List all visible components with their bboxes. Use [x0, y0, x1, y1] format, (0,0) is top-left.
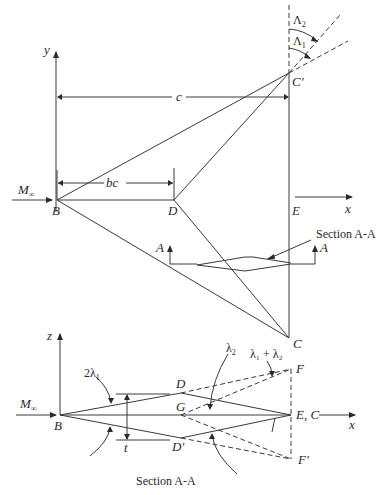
leading-edge-lower [57, 200, 289, 338]
point-E-label: E [291, 203, 300, 218]
dashed-G-F [181, 369, 291, 415]
section-caption: Section A-A [136, 474, 196, 488]
c-dimension-arrow-left-icon [57, 94, 62, 100]
point-EC-label: E, C [295, 407, 319, 422]
freestream-label-section: M∞ [19, 396, 37, 413]
point-D-label: D [167, 203, 178, 218]
sweep-lambda2-label: Λ2 [293, 13, 306, 29]
point-D-section-label: D [175, 376, 186, 391]
c-dimension-arrow-right-icon [284, 94, 289, 100]
point-B-label: B [52, 203, 60, 218]
angle-2lambda1-lower-leader [90, 428, 110, 456]
wing-geometry-diagram: y c bc M∞ Λ2 Λ1 [0, 0, 389, 495]
bc-dimension-label: bc [106, 175, 119, 190]
section-upper-contour [197, 257, 291, 265]
point-Cprime-label: C′ [292, 74, 304, 89]
section-arrow-right-icon [312, 245, 318, 252]
ridge-line-D-Cprime [174, 73, 289, 200]
point-B-section-label: B [54, 418, 62, 433]
angle-sum-label: λ₁ + λ₂ [250, 347, 283, 361]
point-F-label: F [295, 361, 305, 376]
point-Dprime-label: D′ [171, 439, 184, 454]
leading-edge-outer [57, 73, 289, 200]
angle-lambda2-label: λ2 [226, 341, 236, 357]
section-leader-line [270, 240, 311, 258]
y-axis-label: y [42, 42, 50, 57]
sweep-lambda1-label: Λ1 [293, 34, 306, 50]
dashed-D-F [181, 369, 291, 393]
angle-lambda2-lower-leader [212, 435, 237, 474]
section-view: z M∞ t 2λ1 λ2 [16, 328, 355, 488]
angle-lambda2-arrow-icon [207, 404, 213, 410]
section-lower-contour [197, 264, 291, 271]
section-leader-arrow-icon [267, 254, 275, 259]
c-dimension-label: c [176, 89, 182, 104]
angle-sum-lower-leader [272, 418, 275, 432]
section-A-right-label: A [319, 240, 328, 255]
x-axis-label: x [344, 201, 351, 216]
section-marker-right [291, 249, 315, 264]
x-axis-label-section: x [348, 417, 355, 432]
angle-2lambda1-label: 2λ1 [84, 366, 100, 382]
thickness-label: t [124, 440, 128, 455]
lower-forward-surface [60, 415, 181, 438]
dashed-Dprime-Fprime [181, 438, 291, 459]
z-axis-label: z [46, 328, 52, 343]
point-G-label: G [176, 399, 186, 414]
bc-arrow-left-icon [58, 180, 63, 186]
freestream-label: M∞ [17, 182, 35, 199]
upper-forward-surface [60, 393, 181, 415]
bc-arrow-right-icon [168, 180, 173, 186]
angle-2lambda1-arrow-upper-icon [108, 398, 114, 404]
point-C-label: C [293, 336, 302, 351]
section-AA-label: Section A-A [316, 227, 376, 241]
point-Fprime-label: F′ [297, 452, 309, 467]
section-arrow-left-icon [167, 245, 173, 252]
thickness-arrow-up-icon [124, 394, 130, 400]
top-view: y c bc M∞ Λ2 Λ1 [12, 5, 376, 351]
upper-aft-surface [181, 393, 291, 415]
section-marker-left [170, 249, 197, 264]
angle-lambda2-leader [210, 354, 228, 408]
section-A-left-label: A [155, 240, 164, 255]
angle-lambda2-lower-arrow-icon [209, 433, 215, 439]
angle-2lambda1-arrow-lower-icon [107, 426, 113, 432]
